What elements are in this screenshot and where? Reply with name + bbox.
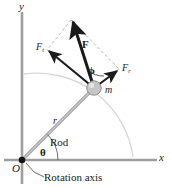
radius-label: r: [53, 116, 57, 126]
diagram-canvas: [0, 0, 171, 188]
phi-angle-label: ϕ: [88, 65, 95, 76]
force-tangential-label: Ft: [36, 42, 44, 52]
theta-angle-label: θ: [40, 147, 46, 158]
y-axis-label: y: [19, 1, 24, 12]
force-tangential-subscript: t: [42, 46, 44, 53]
physics-diagram: y x O θ r Rod Rotation axis m ϕ F Ft Fr: [0, 0, 171, 188]
mass-particle-highlight: [89, 83, 94, 88]
origin-label: O: [12, 163, 20, 174]
force-radial-subscript: r: [128, 67, 130, 74]
mass-label: m: [105, 85, 112, 95]
force-radial-label: Fr: [122, 63, 131, 73]
dashed-guide-radial: [71, 20, 119, 69]
mass-particle: [87, 81, 101, 95]
rod-highlight: [22, 88, 94, 160]
rotation-axis-label: Rotation axis: [44, 172, 102, 183]
rod-label: Rod: [50, 137, 68, 148]
rotation-axis-leader-line: [26, 163, 44, 177]
x-axis-label: x: [159, 152, 164, 163]
dashed-guide-tangential: [47, 20, 71, 50]
circular-path-arc: [24, 73, 133, 157]
force-total-label: F: [82, 39, 89, 50]
